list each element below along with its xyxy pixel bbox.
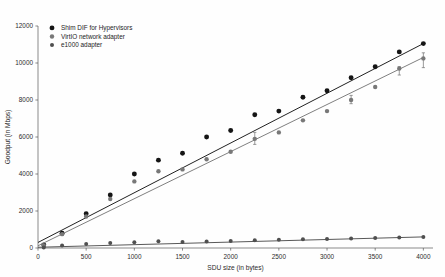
x-tick-label: 3500: [368, 253, 383, 260]
data-point: [228, 150, 232, 154]
data-point: [252, 112, 257, 117]
data-point: [84, 242, 88, 246]
legend-label: Shim DIF for Hypervisors: [61, 24, 132, 32]
data-point: [228, 128, 233, 133]
y-tick-label: 12000: [15, 22, 33, 29]
data-point: [204, 135, 209, 140]
legend-marker-virtio: [50, 34, 54, 38]
data-point: [373, 236, 377, 240]
figure-canvas: 0500100015002000250030003500400002000400…: [0, 0, 445, 277]
data-point: [301, 237, 305, 241]
data-point: [204, 157, 208, 161]
data-point: [300, 95, 305, 100]
data-point: [181, 240, 185, 244]
legend-entry: e1000 adapter: [50, 41, 103, 49]
data-point: [156, 158, 161, 163]
chart-legend: Shim DIF for HypervisorsVirtIO network a…: [50, 24, 133, 49]
data-point: [349, 75, 354, 80]
y-tick-label: 0: [29, 244, 33, 251]
x-tick-label: 0: [36, 253, 40, 260]
y-tick-label: 6000: [19, 133, 34, 140]
data-point: [421, 41, 426, 46]
legend-label: e1000 adapter: [61, 41, 103, 49]
y-axis-title: Goodput (in Mbps): [4, 110, 12, 165]
data-point: [277, 130, 281, 134]
data-point: [156, 169, 160, 173]
y-tick-label: 10000: [15, 59, 33, 66]
data-point: [132, 172, 137, 177]
data-point: [180, 151, 185, 156]
x-tick-label: 1500: [175, 253, 190, 260]
data-series-layer: [38, 41, 426, 249]
data-point: [325, 237, 329, 241]
y-tick-label: 4000: [19, 170, 34, 177]
legend-entry: VirtIO network adapter: [50, 33, 126, 41]
data-point: [421, 56, 425, 60]
series-3: [38, 235, 425, 250]
data-point: [277, 238, 281, 242]
scatter-plot: 0500100015002000250030003500400002000400…: [0, 0, 445, 277]
data-point: [253, 137, 257, 141]
series-2: [38, 53, 426, 248]
data-point: [132, 240, 136, 244]
data-point: [397, 66, 401, 70]
data-point: [325, 88, 330, 93]
y-tick-label: 8000: [19, 96, 34, 103]
data-point: [373, 64, 378, 69]
y-tick-label: 2000: [19, 207, 34, 214]
x-tick-label: 500: [81, 253, 92, 260]
data-point: [84, 214, 88, 218]
data-point: [42, 245, 46, 249]
data-point: [397, 49, 402, 54]
x-tick-label: 3000: [320, 253, 335, 260]
x-axis-title: SDU size (in bytes): [207, 264, 263, 272]
data-point: [205, 240, 209, 244]
data-point: [276, 109, 281, 114]
axis-spines: [38, 26, 433, 248]
x-tick-label: 2500: [272, 253, 287, 260]
axes-layer: 0500100015002000250030003500400002000400…: [15, 22, 433, 259]
data-point: [108, 197, 112, 201]
data-point: [349, 98, 353, 102]
data-point: [60, 244, 64, 248]
data-point: [421, 235, 425, 239]
data-point: [325, 109, 329, 113]
legend-entry: Shim DIF for Hypervisors: [50, 24, 133, 32]
series-1: [38, 41, 426, 247]
data-point: [301, 118, 305, 122]
x-tick-label: 1000: [127, 253, 142, 260]
legend-label: VirtIO network adapter: [61, 33, 126, 41]
trend-line: [38, 44, 423, 243]
data-point: [229, 239, 233, 243]
data-point: [60, 232, 64, 236]
data-point: [108, 192, 113, 197]
legend-marker-shim-dif: [50, 25, 55, 30]
legend-marker-e1000: [50, 43, 54, 47]
x-tick-label: 2000: [224, 253, 239, 260]
data-point: [397, 235, 401, 239]
data-point: [253, 238, 257, 242]
data-point: [349, 237, 353, 241]
data-point: [373, 85, 377, 89]
x-tick-label: 4000: [416, 253, 431, 260]
data-point: [180, 167, 184, 171]
data-point: [108, 241, 112, 245]
data-point: [132, 179, 136, 183]
data-point: [156, 239, 160, 243]
